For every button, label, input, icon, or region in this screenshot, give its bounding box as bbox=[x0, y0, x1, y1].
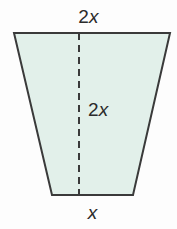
height-variable: x bbox=[99, 99, 109, 120]
bottom-base-label: x bbox=[52, 203, 133, 222]
geometry-figure: 2x 2x x bbox=[0, 0, 177, 229]
height-label: 2x bbox=[88, 100, 108, 119]
height-coefficient: 2 bbox=[88, 99, 99, 120]
top-base-variable: x bbox=[89, 6, 99, 27]
top-base-label: 2x bbox=[0, 7, 177, 26]
bottom-base-variable: x bbox=[88, 202, 98, 223]
top-base-coefficient: 2 bbox=[78, 6, 89, 27]
